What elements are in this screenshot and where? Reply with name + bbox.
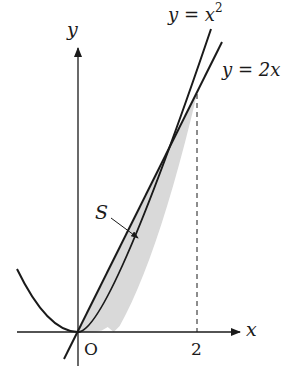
origin-label: O [84, 341, 98, 358]
line-equation-label: y = 2x [222, 61, 280, 79]
line-lhs: y [222, 59, 232, 80]
x-axis-label: x [246, 320, 257, 339]
line-eq: = [238, 59, 253, 80]
x-tick-label-2: 2 [191, 341, 202, 358]
parabola-rhs-exp: 2 [215, 1, 223, 15]
line-y-2x [64, 42, 222, 359]
parabola-eq: = [184, 4, 199, 25]
region-s-label: S [95, 203, 108, 222]
parabola-equation-label: y = x2 [168, 6, 223, 24]
y-axis-label: y [67, 20, 78, 39]
parabola-rhs-base: x [205, 4, 215, 25]
area-between-curves-diagram [0, 0, 281, 382]
parabola-lhs: y [168, 4, 178, 25]
line-rhs: 2x [259, 59, 281, 80]
